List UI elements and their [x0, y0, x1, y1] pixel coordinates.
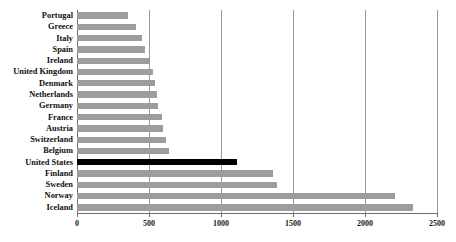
bar-row: [77, 145, 437, 156]
bar-spain: [77, 46, 145, 52]
bar-united-kingdom: [77, 69, 153, 75]
bar-row: [77, 89, 437, 100]
category-label-greece: Greece: [0, 21, 73, 32]
bar-italy: [77, 35, 142, 41]
bar-row: [77, 168, 437, 179]
category-label-switzerland: Switzerland: [0, 134, 73, 145]
category-label-norway: Norway: [0, 190, 73, 201]
bar-switzerland: [77, 137, 166, 143]
bar-row: [77, 78, 437, 89]
bar-germany: [77, 103, 158, 109]
bar-norway: [77, 193, 395, 199]
x-tick-label: 1000: [213, 219, 229, 228]
plot-area: [77, 10, 437, 213]
bar-row: [77, 134, 437, 145]
bar-portugal: [77, 12, 128, 18]
bar-row: [77, 10, 437, 21]
bar-ireland: [77, 58, 149, 64]
category-axis-labels: PortugalGreeceItalySpainIrelandUnited Ki…: [0, 10, 75, 213]
tick-mark-1000: [221, 213, 222, 217]
x-axis-line: [77, 213, 438, 214]
bar-row: [77, 44, 437, 55]
bar-netherlands: [77, 91, 157, 97]
bar-row: [77, 66, 437, 77]
category-label-portugal: Portugal: [0, 10, 73, 21]
bar-row: [77, 190, 437, 201]
bar-denmark: [77, 80, 155, 86]
bar-row: [77, 55, 437, 66]
bar-row: [77, 179, 437, 190]
tick-mark-500: [149, 213, 150, 217]
x-tick-label: 2500: [429, 219, 445, 228]
category-label-denmark: Denmark: [0, 78, 73, 89]
category-label-germany: Germany: [0, 100, 73, 111]
bar-belgium: [77, 148, 169, 154]
category-label-belgium: Belgium: [0, 145, 73, 156]
x-tick-label: 1500: [285, 219, 301, 228]
bar-finland: [77, 170, 273, 176]
category-label-france: France: [0, 112, 73, 123]
bar-row: [77, 33, 437, 44]
category-label-united-states: United States: [0, 157, 73, 168]
x-tick-label: 500: [143, 219, 155, 228]
category-label-italy: Italy: [0, 33, 73, 44]
bar-iceland: [77, 204, 413, 210]
tick-mark-2000: [365, 213, 366, 217]
x-tick-label: 2000: [357, 219, 373, 228]
bar-united-states: [77, 159, 237, 165]
category-label-austria: Austria: [0, 123, 73, 134]
tick-mark-1500: [293, 213, 294, 217]
category-label-united-kingdom: United Kingdom: [0, 66, 73, 77]
category-label-netherlands: Netherlands: [0, 89, 73, 100]
bar-row: [77, 123, 437, 134]
category-label-finland: Finland: [0, 168, 73, 179]
gridline-2500: [437, 10, 438, 213]
bar-sweden: [77, 182, 277, 188]
bar-austria: [77, 125, 163, 131]
tick-mark-0: [77, 213, 78, 217]
bar-row: [77, 100, 437, 111]
bar-france: [77, 114, 162, 120]
category-label-iceland: Iceland: [0, 202, 73, 213]
bar-greece: [77, 24, 136, 30]
bar-row: [77, 157, 437, 168]
x-tick-label: 0: [75, 219, 79, 228]
bar-row: [77, 21, 437, 32]
bar-chart: PortugalGreeceItalySpainIrelandUnited Ki…: [0, 0, 456, 242]
category-label-ireland: Ireland: [0, 55, 73, 66]
category-label-sweden: Sweden: [0, 179, 73, 190]
bar-row: [77, 202, 437, 213]
bar-row: [77, 112, 437, 123]
tick-mark-2500: [437, 213, 438, 217]
category-label-spain: Spain: [0, 44, 73, 55]
